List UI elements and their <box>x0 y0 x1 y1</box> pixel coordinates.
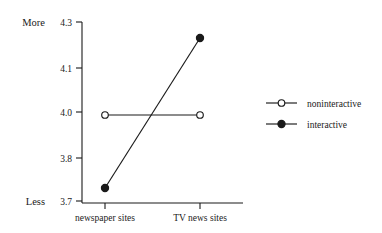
x-category-label-tv-news-sites: TV news sites <box>173 213 227 223</box>
legend-marker-interactive <box>278 120 285 127</box>
chart-canvas: 4.3 4.1 4.0 3.8 3.7 More Less newspaper … <box>0 0 382 233</box>
y-tick-label-4-3: 4.3 <box>60 18 72 28</box>
data-point-interactive-tv-news-sites <box>196 34 203 41</box>
legend-label-noninteractive: noninteractive <box>307 99 361 109</box>
y-tick-label-4-0: 4.0 <box>60 108 72 118</box>
data-point-noninteractive-tv-news-sites <box>197 112 204 119</box>
x-category-label-newspaper-sites: newspaper sites <box>75 213 135 223</box>
y-tick-label-3-8: 3.8 <box>60 154 72 164</box>
series-line-interactive <box>105 38 200 188</box>
axis-anchor-more: More <box>22 17 45 28</box>
chart-legend: noninteractive interactive <box>266 99 361 130</box>
legend-label-interactive: interactive <box>307 120 347 130</box>
y-tick-label-4-1: 4.1 <box>60 64 72 74</box>
y-tick-label-3-7: 3.7 <box>60 197 72 207</box>
line-chart-figure: 4.3 4.1 4.0 3.8 3.7 More Less newspaper … <box>0 0 382 233</box>
axis-anchor-less: Less <box>26 196 45 207</box>
data-point-noninteractive-newspaper-sites <box>102 112 109 119</box>
data-point-interactive-newspaper-sites <box>101 184 108 191</box>
legend-marker-noninteractive <box>278 100 285 107</box>
